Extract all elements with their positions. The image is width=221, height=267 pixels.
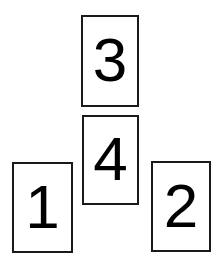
card-3[interactable]: 3 [81,15,139,107]
card-1-number: 1 [25,176,59,238]
card-1[interactable]: 1 [12,162,73,253]
card-4-number: 4 [93,128,127,190]
card-2-number: 2 [164,175,198,237]
card-3-number: 3 [93,29,127,91]
card-layout-canvas: 3 4 1 2 [0,0,221,267]
card-2[interactable]: 2 [151,161,211,252]
card-4[interactable]: 4 [82,115,139,205]
